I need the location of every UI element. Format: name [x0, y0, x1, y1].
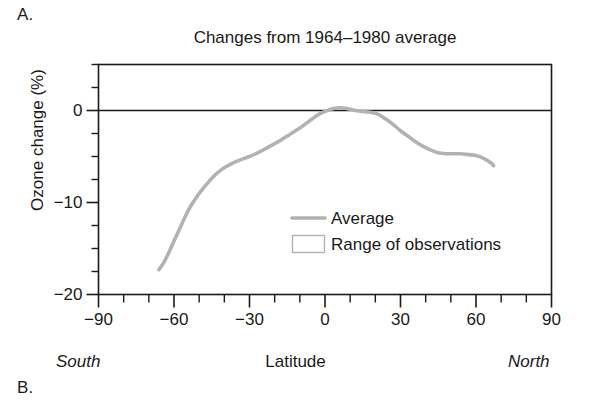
- figure-panel-a: A. B. Changes from 1964–1980 average Ozo…: [0, 0, 591, 408]
- x-tick-label: −30: [220, 311, 280, 328]
- x-tick-label: 0: [295, 311, 355, 328]
- y-tick-label: 0: [31, 102, 83, 119]
- x-tick-label: 90: [522, 311, 582, 328]
- x-tick-label: −60: [144, 311, 204, 328]
- legend-label-range: Range of observations: [331, 235, 501, 255]
- x-tick-label: 30: [371, 311, 431, 328]
- y-tick-label: −10: [31, 194, 83, 211]
- x-tick-label: −90: [69, 311, 129, 328]
- x-tick-label: 60: [446, 311, 506, 328]
- legend-swatch-range-of-observations: [293, 236, 325, 253]
- plot-area: [0, 0, 591, 408]
- y-tick-label: −20: [31, 286, 83, 303]
- y-major-ticks: [87, 111, 99, 295]
- y-minor-ticks: [92, 65, 99, 272]
- x-major-ticks: [99, 295, 552, 308]
- legend-label-average: Average: [331, 209, 394, 229]
